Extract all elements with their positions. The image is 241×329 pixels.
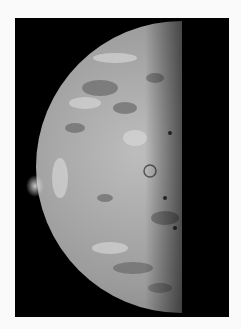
moon-image xyxy=(15,18,229,317)
volcanic-plume xyxy=(26,175,44,197)
photo-frame xyxy=(15,18,229,317)
